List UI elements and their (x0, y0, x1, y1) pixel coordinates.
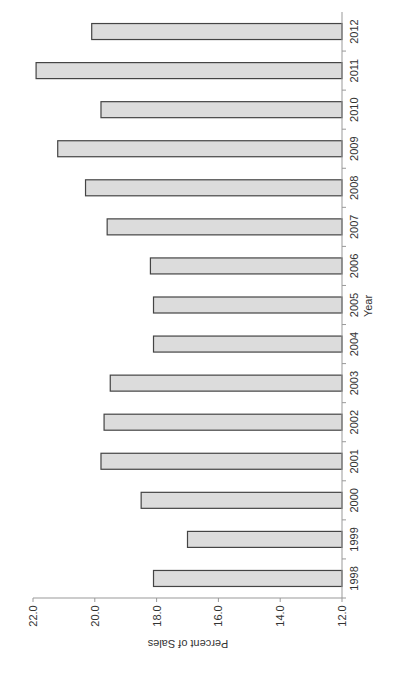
category-tick-label: 2002 (348, 410, 360, 434)
bar-2007 (107, 219, 342, 235)
category-axis-ticks: 1998199920002001200220032004200520062007… (342, 19, 360, 598)
bar-chart: 12.014.016.018.020.022.0 199819992000200… (0, 0, 397, 679)
category-tick-label: 2009 (348, 136, 360, 160)
value-axis-title: Percent of Sales (147, 638, 228, 650)
bar-2003 (110, 375, 342, 391)
bar-2009 (58, 141, 342, 157)
plot-area (36, 24, 342, 587)
bar-2011 (36, 63, 342, 79)
bar-2010 (101, 102, 342, 118)
bar-2008 (86, 180, 342, 196)
category-tick-label: 2001 (348, 449, 360, 473)
category-tick-label: 2004 (348, 332, 360, 356)
bar-2000 (141, 492, 342, 508)
bar-2002 (104, 414, 342, 430)
bar-2012 (92, 24, 342, 40)
bar-2004 (154, 336, 342, 352)
value-tick-label: 22.0 (27, 605, 39, 626)
category-tick-label: 2012 (348, 19, 360, 43)
category-tick-label: 2005 (348, 293, 360, 317)
bar-1999 (188, 531, 343, 547)
bar-1998 (154, 570, 342, 586)
value-tick-label: 18.0 (151, 605, 163, 626)
category-tick-label: 1998 (348, 566, 360, 590)
category-tick-label: 2000 (348, 488, 360, 512)
value-tick-label: 16.0 (212, 605, 224, 626)
category-tick-label: 2007 (348, 215, 360, 239)
category-axis-title: Year (362, 295, 374, 318)
category-tick-label: 1999 (348, 527, 360, 551)
value-tick-label: 20.0 (89, 605, 101, 626)
value-axis-ticks: 12.014.016.018.020.022.0 (27, 598, 348, 627)
bar-2005 (154, 297, 342, 313)
value-tick-label: 14.0 (274, 605, 286, 626)
category-tick-label: 2008 (348, 176, 360, 200)
bar-2006 (150, 258, 342, 274)
bar-2001 (101, 453, 342, 469)
category-tick-label: 2003 (348, 371, 360, 395)
category-tick-label: 2010 (348, 97, 360, 121)
category-tick-label: 2006 (348, 254, 360, 278)
category-tick-label: 2011 (348, 59, 360, 83)
value-tick-label: 12.0 (336, 605, 348, 626)
